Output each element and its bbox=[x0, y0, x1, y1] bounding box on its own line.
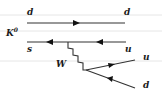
bottom-quark-line bbox=[27, 39, 126, 45]
top-left-quark-label: d bbox=[27, 7, 34, 17]
outgoing-d-line bbox=[86, 70, 135, 88]
arrow-left-icon bbox=[46, 39, 53, 45]
top-right-quark-label: d bbox=[124, 7, 131, 17]
arrow-left-icon bbox=[96, 39, 103, 45]
arrow-inward-icon bbox=[107, 76, 113, 82]
boson-label: W bbox=[56, 59, 67, 69]
top-quark-line bbox=[27, 20, 125, 26]
feynman-diagram: d d K0 s u W u d bbox=[0, 0, 162, 92]
arrow-right-icon bbox=[73, 20, 80, 26]
meson-superscript: 0 bbox=[14, 26, 19, 33]
meson-label: K0 bbox=[5, 26, 19, 38]
w-boson-propagator bbox=[68, 42, 86, 70]
outgoing-u-label: u bbox=[143, 52, 150, 62]
bottom-right-quark-label: u bbox=[125, 44, 132, 54]
bottom-left-quark-label: s bbox=[27, 44, 32, 54]
outgoing-d-label: d bbox=[143, 80, 150, 90]
